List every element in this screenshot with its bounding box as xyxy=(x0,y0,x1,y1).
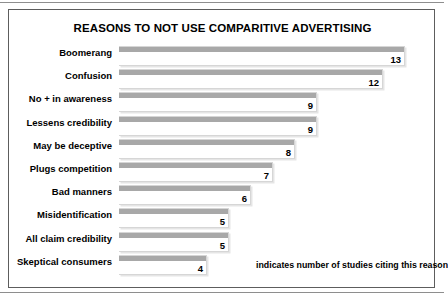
bar-fill xyxy=(119,256,206,261)
chart-row: Skeptical consumers 4 indicates number o… xyxy=(9,254,436,277)
bar-fill xyxy=(119,233,228,238)
chart-row: Lessens credibility 9 xyxy=(9,115,436,138)
bar: 9 xyxy=(119,116,317,136)
bar-fill xyxy=(119,70,382,75)
category-label: Misidentification xyxy=(9,209,112,220)
bar: 8 xyxy=(119,139,295,159)
chart-annotation: indicates number of studies citing this … xyxy=(256,260,448,270)
bar-value-label: 9 xyxy=(308,124,313,135)
chart-row: Confusion 12 xyxy=(9,68,436,91)
bar-value-label: 5 xyxy=(220,240,225,251)
bar-value-label: 9 xyxy=(308,100,313,111)
bar: 5 xyxy=(119,232,229,252)
bar: 5 xyxy=(119,208,229,228)
bar-fill xyxy=(119,117,316,122)
chart-row: Misidentification 5 xyxy=(9,207,436,230)
category-label: Lessens credibility xyxy=(9,117,112,128)
category-label: Plugs competition xyxy=(9,163,112,174)
plot-area: Boomerang 13 Confusion 12 No + in awaren… xyxy=(9,45,436,277)
page-bottom-rule xyxy=(0,292,444,293)
category-label: Boomerang xyxy=(9,47,112,58)
category-label: Skeptical consumers xyxy=(9,256,112,267)
bar-value-label: 6 xyxy=(242,193,247,204)
bar-value-label: 13 xyxy=(390,54,401,65)
bar: 7 xyxy=(119,162,273,182)
bar-value-label: 7 xyxy=(264,170,269,181)
bar-fill xyxy=(119,47,404,52)
chart-row: No + in awareness 9 xyxy=(9,91,436,114)
bar: 9 xyxy=(119,92,317,112)
bar-fill xyxy=(119,186,250,191)
bar-value-label: 5 xyxy=(220,216,225,227)
bar-fill xyxy=(119,140,294,145)
chart-row: Boomerang 13 xyxy=(9,45,436,68)
chart-title: REASONS TO NOT USE COMPARITIVE ADVERTISI… xyxy=(9,22,436,34)
category-label: Bad manners xyxy=(9,186,112,197)
bar: 12 xyxy=(119,69,383,89)
bar: 4 xyxy=(119,255,207,275)
bar-value-label: 4 xyxy=(198,263,203,274)
bar: 13 xyxy=(119,46,405,66)
bar-fill xyxy=(119,209,228,214)
bar-fill xyxy=(119,163,272,168)
bar-value-label: 12 xyxy=(368,77,379,88)
bar-value-label: 8 xyxy=(286,147,291,158)
category-label: No + in awareness xyxy=(9,93,112,104)
page-top-rule xyxy=(0,2,444,3)
bar-fill xyxy=(119,93,316,98)
category-label: All claim credibility xyxy=(9,233,112,244)
category-label: May be deceptive xyxy=(9,140,112,151)
category-label: Confusion xyxy=(9,70,112,81)
chart-row: Bad manners 6 xyxy=(9,184,436,207)
bar: 6 xyxy=(119,185,251,205)
chart-frame: REASONS TO NOT USE COMPARITIVE ADVERTISI… xyxy=(8,9,435,288)
chart-row: All claim credibility 5 xyxy=(9,231,436,254)
chart-row: Plugs competition 7 xyxy=(9,161,436,184)
chart-row: May be deceptive 8 xyxy=(9,138,436,161)
